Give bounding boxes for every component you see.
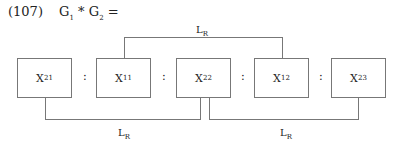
separator: : [83,70,87,83]
box-x23: X23 [331,58,386,98]
g2: G2 [89,4,104,19]
g1: G1 [59,4,74,19]
bottom-left-link-label: LR [118,127,130,141]
box-x21: X21 [17,58,72,98]
separator: : [319,70,323,83]
top-bracket-left-leg [124,37,125,58]
box-x12: X12 [254,58,309,98]
operator: * [78,4,85,19]
box-x22: X22 [176,58,231,98]
equation-number: (107) [8,4,43,19]
top-bracket-bar [124,37,283,38]
bottom-right-bracket-right-leg [358,98,359,119]
top-link-label: LR [196,24,208,38]
bottom-right-link-label: LR [280,127,292,141]
bottom-left-bracket-bar [45,119,201,120]
separator: : [162,70,166,83]
box-x11: X11 [96,58,151,98]
separator: : [241,70,245,83]
bottom-left-bracket-right-leg [200,98,201,119]
bottom-right-bracket-bar [209,119,359,120]
equation-header: (107) G1 * G2 = [8,4,119,22]
equals-sign: = [108,4,119,19]
top-bracket-right-leg [282,37,283,58]
bottom-right-bracket-left-leg [209,98,210,119]
bottom-left-bracket-left-leg [45,98,46,119]
